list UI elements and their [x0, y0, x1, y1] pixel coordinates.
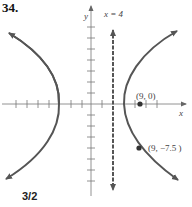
hyperbola-graph: y x x = 4 (9, 0) (9, −7.5 ) [0, 0, 192, 207]
left-branch-curve [6, 33, 59, 179]
x-axis [2, 100, 186, 108]
y-axis-label: y [83, 11, 88, 21]
point-9-0 [137, 101, 142, 106]
y-axis [87, 6, 95, 196]
asymptote-label: x = 4 [103, 9, 124, 19]
x-axis-label: x [178, 108, 183, 118]
answer-text: 3/2 [22, 190, 37, 202]
point-label-9-neg7-5: (9, −7.5 ) [148, 143, 182, 153]
point-9-neg7-5 [136, 145, 141, 150]
point-label-9-0: (9, 0) [136, 91, 156, 101]
